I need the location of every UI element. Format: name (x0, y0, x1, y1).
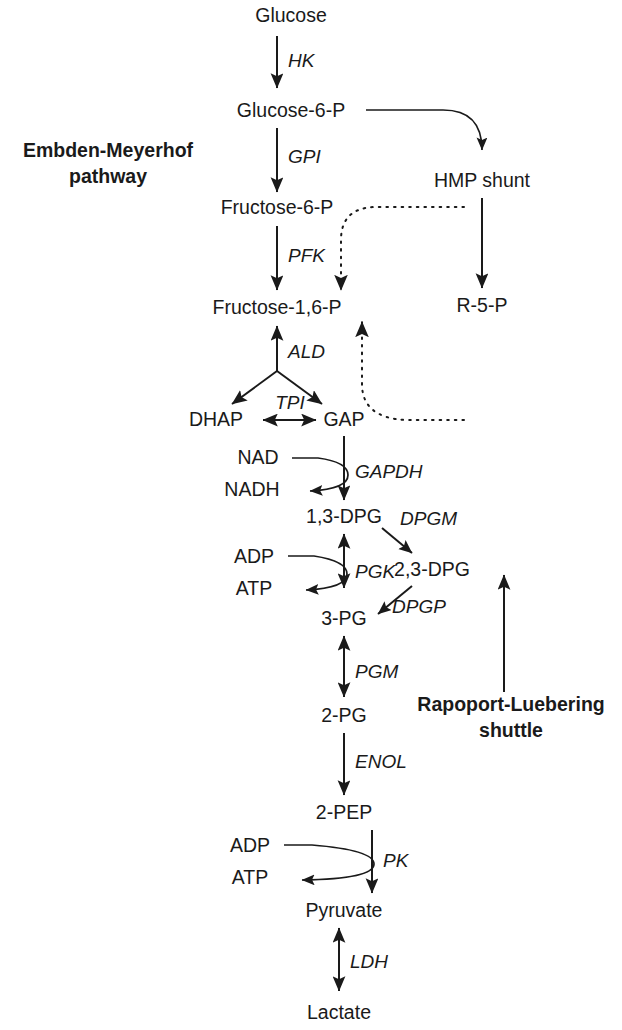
arrow-g6p-to-hmp-shunt (366, 110, 482, 150)
cofactor-adp-pk: ADP (230, 834, 270, 856)
metabolite-2-3-dpg: 2,3-DPG (394, 558, 470, 580)
enzyme-dpgm: DPGM (400, 508, 457, 529)
metabolite-glucose-6-p: Glucose-6-P (237, 99, 345, 121)
cofactor-nadh: NADH (224, 478, 279, 500)
metabolite-pyruvate: Pyruvate (306, 899, 383, 921)
label-rapoport-luebering-line1: Rapoport-Luebering (417, 693, 604, 715)
metabolite-hmp-shunt: HMP shunt (434, 169, 531, 191)
metabolite-2-pg: 2-PG (321, 704, 367, 726)
metabolite-r-5-p: R-5-P (457, 294, 508, 316)
metabolite-dhap: DHAP (189, 408, 243, 430)
enzyme-gpi: GPI (288, 146, 321, 167)
dotted-arrow-r5p-to-f6p (341, 207, 464, 290)
label-rapoport-luebering-line2: shuttle (479, 719, 543, 741)
metabolite-fructose-6-p: Fructose-6-P (221, 196, 334, 218)
enzyme-enol: ENOL (355, 751, 407, 772)
metabolite-2-pep: 2-PEP (316, 801, 372, 823)
cofactor-nad: NAD (237, 446, 278, 468)
cofactor-atp-pgk: ATP (236, 577, 272, 599)
arrow-ald-to-dhap (232, 371, 277, 404)
cofactor-atp-pk: ATP (232, 866, 268, 888)
enzyme-pgm: PGM (355, 661, 398, 682)
metabolite-fructose-1-6-p: Fructose-1,6-P (213, 296, 342, 318)
arrow-adp-to-atp-pk (284, 845, 374, 880)
enzyme-gapdh: GAPDH (355, 461, 423, 482)
label-embden-meyerhof-line1: Embden-Meyerhof (23, 139, 194, 161)
metabolite-lactate: Lactate (307, 1001, 371, 1023)
enzyme-ldh: LDH (350, 951, 388, 972)
arrow-dpgm-13dpg-to-23dpg (382, 528, 412, 553)
metabolite-1-3-dpg: 1,3-DPG (306, 505, 382, 527)
metabolite-glucose: Glucose (255, 4, 327, 26)
label-embden-meyerhof-line2: pathway (69, 165, 147, 187)
metabolite-3-pg: 3-PG (321, 607, 367, 629)
enzyme-tpi: TPI (275, 392, 305, 413)
enzyme-dpgp: DPGP (392, 596, 446, 617)
metabolite-gap: GAP (323, 408, 364, 430)
arrow-adp-to-atp-pgk (288, 556, 347, 590)
enzyme-pgk: PGK (355, 561, 396, 582)
enzyme-ald: ALD (287, 341, 325, 362)
cofactor-adp-pgk: ADP (234, 545, 274, 567)
enzyme-pfk: PFK (288, 245, 326, 266)
enzyme-hk: HK (288, 50, 316, 71)
enzyme-pk: PK (383, 850, 410, 871)
glycolysis-pathway-diagram: Glucose HK Glucose-6-P GPI Fructose-6-P … (0, 0, 622, 1030)
arrow-nad-to-nadh (292, 458, 348, 491)
dotted-arrow-r5p-to-gap (362, 322, 464, 420)
